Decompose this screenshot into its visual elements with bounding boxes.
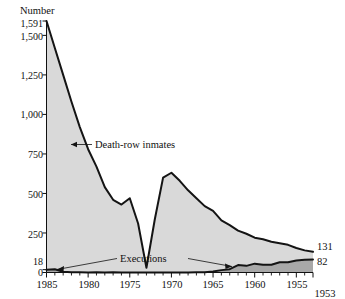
y-tick-label-250: 250	[28, 229, 43, 240]
y-tick-label-1250: 1,250	[21, 70, 44, 81]
x-tick-label-1980: 1980	[79, 279, 100, 290]
x-tick-label-1960: 1960	[245, 279, 266, 290]
y-tick-label-1591: 1,591	[21, 18, 44, 29]
chart-page: Number 1,591 1,500 1,250 1,000 750 500 2…	[0, 0, 345, 299]
x-tick-label-1955: 1955	[287, 279, 308, 290]
x-tick-label-1985: 1985	[37, 279, 58, 290]
chart-plot-area	[47, 21, 314, 273]
y-tick-label-0: 0	[38, 267, 43, 278]
x-tick-label-1965: 1965	[203, 279, 224, 290]
y-tick-label-1500: 1,500	[21, 31, 44, 42]
y-axis-tick-labels: 1,591 1,500 1,250 1,000 750 500 250 18 0	[21, 18, 44, 278]
annotation-label-executions: Executions	[120, 253, 167, 264]
x-tick-label-1975: 1975	[120, 279, 141, 290]
y-tick-label-18: 18	[33, 256, 43, 267]
x-axis-tick-labels: 1985 1980 1975 1970 1965 1960 1955 1953	[37, 279, 336, 299]
y-tick-label-750: 750	[28, 149, 43, 160]
end-value-labels: 131 82	[317, 241, 333, 267]
annotation-label-death-row-inmates: Death-row inmates	[95, 139, 175, 150]
y-tick-label-500: 500	[28, 189, 43, 200]
end-label-death-row-inmates: 131	[317, 241, 333, 252]
x-tick-label-1970: 1970	[162, 279, 183, 290]
y-axis-ticks	[43, 21, 47, 273]
y-tick-label-1000: 1,000	[21, 109, 44, 120]
y-axis-title: Number	[20, 5, 55, 16]
death-row-chart: Number 1,591 1,500 1,250 1,000 750 500 2…	[0, 0, 345, 299]
x-tick-label-1953: 1953	[315, 288, 336, 299]
end-label-executions: 82	[317, 256, 328, 267]
